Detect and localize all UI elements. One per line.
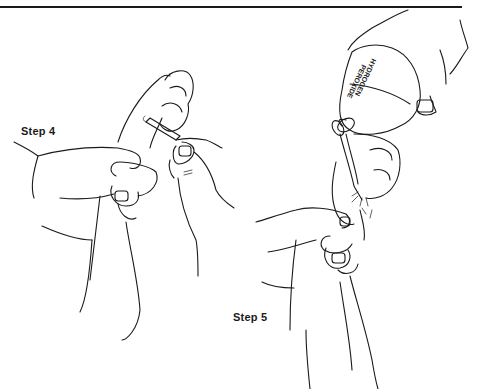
- step4-illustration: [14, 71, 234, 340]
- step5-illustration: HYDROGEN PEROXIDE: [256, 10, 468, 389]
- step-illustrations: HYDROGEN PEROXIDE: [0, 0, 481, 389]
- step4-label: Step 4: [21, 125, 55, 137]
- step5-label: Step 5: [233, 311, 267, 323]
